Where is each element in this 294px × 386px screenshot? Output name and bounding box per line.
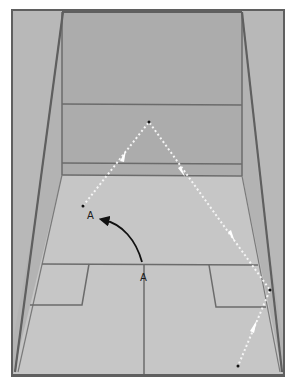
front-wall-service-line bbox=[62, 163, 242, 164]
ball-end-point bbox=[237, 365, 240, 368]
short-line bbox=[42, 264, 258, 265]
ball-start-point bbox=[82, 205, 85, 208]
side-wall-hit-point bbox=[269, 289, 272, 292]
squash-court-diagram: A A bbox=[0, 0, 294, 386]
front-wall-hit-point bbox=[148, 121, 151, 124]
front-wall-tin-line bbox=[62, 175, 242, 176]
player-label-start: A bbox=[140, 272, 147, 283]
player-label-end: A bbox=[87, 210, 94, 221]
front-wall bbox=[62, 12, 242, 175]
front-wall-out-line bbox=[62, 104, 242, 105]
